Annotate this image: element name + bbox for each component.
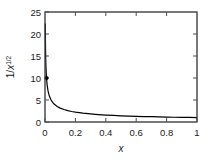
- x-tick-label: 0: [42, 127, 47, 138]
- x-tick-label: 0.8: [160, 127, 173, 138]
- x-tick-label: 1: [194, 127, 199, 138]
- plot-background: [45, 12, 197, 122]
- y-tick-label: 15: [30, 51, 41, 62]
- y-tick-label: 5: [36, 95, 41, 106]
- function-plot: 0 5 10 15 20 25 0 0.2 0.4 0.6 0.8 1 x 1/…: [0, 0, 210, 160]
- x-tick-label: 0.2: [69, 127, 82, 138]
- y-axis-tick-labels: 0 5 10 15 20 25: [30, 7, 41, 128]
- x-tick-label: 0.6: [130, 127, 143, 138]
- y-axis-title-exponent: 1/2: [5, 55, 12, 64]
- chart-figure: 0 5 10 15 20 25 0 0.2 0.4 0.6 0.8 1 x 1/…: [0, 0, 210, 160]
- y-axis-title: 1/x1/2: [5, 55, 17, 78]
- x-axis-title: x: [118, 143, 125, 154]
- y-tick-label: 20: [30, 29, 41, 40]
- y-tick-label: 0: [36, 117, 41, 128]
- x-axis-tick-labels: 0 0.2 0.4 0.6 0.8 1: [42, 127, 199, 138]
- y-tick-label: 10: [30, 73, 41, 84]
- y-axis-title-prefix: 1/: [5, 70, 16, 79]
- y-tick-label: 25: [30, 7, 41, 18]
- x-tick-label: 0.4: [99, 127, 112, 138]
- x-axis-title-text: x: [118, 143, 125, 154]
